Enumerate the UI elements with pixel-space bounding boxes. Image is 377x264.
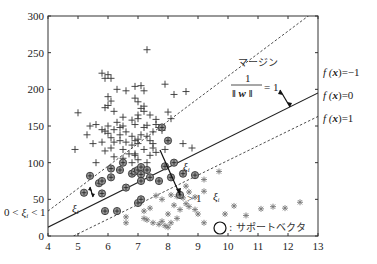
plus-marker bbox=[108, 145, 115, 152]
support-vector-marker bbox=[98, 190, 105, 197]
asterisk-marker bbox=[165, 224, 171, 230]
xi-range-label: 0 <ξi< 1 bbox=[4, 206, 46, 220]
support-vector-marker bbox=[113, 207, 120, 214]
asterisk-marker bbox=[195, 211, 201, 217]
asterisk-marker bbox=[174, 215, 180, 221]
support-vector-legend-icon bbox=[214, 222, 226, 234]
plus-marker bbox=[147, 137, 154, 144]
asterisk-marker bbox=[216, 168, 222, 174]
support-vector-marker bbox=[146, 174, 153, 181]
y-tick-label: 300 bbox=[28, 10, 45, 22]
asterisk-marker bbox=[222, 211, 228, 217]
support-vector-marker bbox=[80, 189, 87, 196]
plus-marker bbox=[93, 159, 100, 166]
support-vector-marker bbox=[98, 177, 105, 184]
decision-lines bbox=[48, 9, 318, 236]
x-tick-label: 7 bbox=[135, 240, 141, 252]
plus-marker bbox=[108, 98, 115, 105]
xi-label-small: ξi bbox=[72, 202, 79, 216]
support-vector-marker bbox=[107, 165, 114, 172]
margin-line bbox=[48, 9, 318, 211]
plus-marker bbox=[132, 83, 139, 90]
plus-marker bbox=[141, 146, 148, 153]
support-vector-marker bbox=[191, 172, 198, 179]
fraction-numerator: 1 bbox=[245, 72, 251, 84]
support-vector-marker bbox=[137, 177, 144, 184]
plus-marker bbox=[123, 139, 130, 146]
asterisk-marker bbox=[150, 220, 156, 226]
plus-marker bbox=[135, 112, 142, 119]
plus-marker bbox=[108, 75, 115, 82]
plus-marker bbox=[141, 87, 148, 94]
plus-marker bbox=[147, 152, 154, 159]
plus-marker bbox=[75, 109, 82, 116]
asterisk-marker bbox=[282, 205, 288, 211]
plus-marker bbox=[99, 70, 106, 77]
asterisk-marker bbox=[177, 207, 183, 213]
margin-label: マージン bbox=[238, 57, 278, 68]
plus-marker bbox=[144, 46, 151, 53]
plus-marker bbox=[108, 134, 115, 141]
plus-marker bbox=[111, 139, 118, 146]
plus-marker bbox=[132, 150, 139, 157]
plus-marker bbox=[150, 145, 157, 152]
plus-marker bbox=[162, 146, 169, 153]
x-tick-label: 13 bbox=[313, 240, 325, 252]
plus-marker bbox=[129, 142, 136, 149]
plus-marker bbox=[135, 140, 142, 147]
plus-marker bbox=[84, 131, 91, 138]
plus-marker bbox=[99, 126, 106, 133]
plus-marker bbox=[111, 108, 118, 115]
plus-marker bbox=[102, 75, 109, 82]
plus-marker bbox=[135, 156, 142, 163]
plus-marker bbox=[180, 140, 187, 147]
support-vector-marker bbox=[164, 137, 171, 144]
asterisk-marker bbox=[270, 204, 276, 210]
plus-marker bbox=[162, 81, 169, 88]
plus-marker bbox=[117, 137, 124, 144]
y-tick-label: 50 bbox=[33, 193, 45, 205]
x-tick-label: 4 bbox=[45, 240, 51, 252]
support-vector-marker bbox=[158, 124, 165, 131]
asterisk-marker bbox=[159, 218, 165, 224]
support-vector-legend: : サポートベクタ bbox=[229, 222, 306, 233]
y-tick-label: 100 bbox=[28, 157, 45, 169]
slack-arrow-large bbox=[160, 150, 180, 195]
plus-marker bbox=[87, 123, 94, 130]
plus-marker bbox=[171, 91, 178, 98]
plus-marker bbox=[117, 124, 124, 131]
support-vector-marker bbox=[119, 159, 126, 166]
support-vector-marker bbox=[137, 196, 144, 203]
plus-marker bbox=[126, 150, 133, 157]
asterisk-marker bbox=[201, 188, 207, 194]
plus-marker bbox=[105, 93, 112, 100]
asterisk-marker bbox=[243, 212, 249, 218]
asterisk-marker bbox=[183, 183, 189, 189]
plus-marker bbox=[102, 147, 109, 154]
label-f-one: f (x)=1 bbox=[323, 112, 353, 125]
plus-marker bbox=[120, 146, 127, 153]
asterisk-marker bbox=[231, 203, 237, 209]
label-f-zero: f (x)=0 bbox=[323, 89, 354, 102]
plus-marker bbox=[132, 137, 139, 144]
asterisk-marker bbox=[201, 177, 207, 183]
asterisk-marker bbox=[186, 204, 192, 210]
x-tick-label: 6 bbox=[105, 240, 111, 252]
plus-marker bbox=[120, 123, 127, 130]
x-tick-label: 11 bbox=[253, 240, 264, 252]
support-vector-marker bbox=[86, 172, 93, 179]
plus-marker bbox=[138, 131, 145, 138]
fraction-denominator: ‖ w ‖ bbox=[232, 87, 253, 99]
plus-marker bbox=[141, 108, 148, 115]
x-tick-label: 8 bbox=[165, 240, 171, 252]
arrowhead-icon bbox=[91, 193, 95, 197]
x-tick-label: 5 bbox=[75, 240, 81, 252]
asterisk-marker bbox=[168, 192, 174, 198]
asterisk-marker bbox=[153, 193, 159, 199]
plus-marker bbox=[90, 140, 97, 147]
asterisk-marker bbox=[123, 214, 129, 220]
plus-marker bbox=[99, 139, 106, 146]
plus-marker bbox=[183, 88, 190, 95]
svm-margin-chart: 45678910111213050100150200250300 マージン 1 … bbox=[0, 0, 377, 264]
y-tick-label: 0 bbox=[39, 230, 45, 242]
